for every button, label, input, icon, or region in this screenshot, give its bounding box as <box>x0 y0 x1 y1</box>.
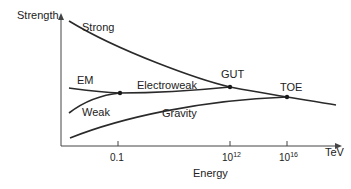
gut-point <box>228 85 232 89</box>
toe-label: TOE <box>280 81 302 93</box>
em-label: EM <box>77 74 94 86</box>
toe-point <box>285 95 289 99</box>
gravity-label: Gravity <box>162 107 197 119</box>
tick-label-0.1: 0.1 <box>110 152 124 163</box>
strong-label: Strong <box>82 21 114 33</box>
y-axis-label: Strength <box>17 9 59 21</box>
tick-label-1e12: 1012 <box>222 151 241 163</box>
electroweak-label: Electroweak <box>137 79 197 91</box>
x-unit-label: TeV <box>325 146 345 158</box>
curves <box>69 21 336 138</box>
gut-label: GUT <box>221 68 245 80</box>
y-axis-arrow-icon <box>58 13 64 20</box>
electroweak-point <box>118 91 122 95</box>
x-axis-label: Energy <box>193 167 228 179</box>
em-curve <box>69 88 120 93</box>
tick-label-1e16: 1016 <box>279 151 298 163</box>
force-unification-chart: Strength Strong EM Weak Electroweak Grav… <box>0 0 351 189</box>
weak-label: Weak <box>82 106 110 118</box>
